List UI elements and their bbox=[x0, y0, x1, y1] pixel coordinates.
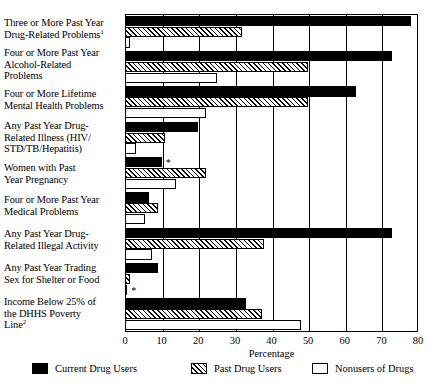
xtick-30: 30 bbox=[220, 335, 250, 346]
category-label-1-line3: Problems bbox=[4, 70, 42, 81]
bar-nonuser-0 bbox=[125, 37, 130, 47]
category-label-3-line1: Any Past Year Drug- bbox=[4, 120, 89, 131]
category-label-2-line1: Four or More Lifetime bbox=[4, 88, 96, 99]
category-label-3-line2: Related Illness (HIV/ bbox=[4, 132, 91, 143]
category-label-8-line2: the DHHS Poverty bbox=[4, 308, 81, 319]
category-label-6-line1: Any Past Year Drug- bbox=[4, 228, 89, 239]
category-label-4-line1: Women with Past bbox=[4, 162, 76, 173]
category-label-0-line1: Three or More Past Year bbox=[4, 17, 104, 28]
legend-label-current: Current Drug Users bbox=[55, 363, 137, 374]
category-label-0-line2: Drug-Related Problems bbox=[4, 29, 100, 40]
legend-item-current-drug-users: Current Drug Users bbox=[32, 363, 137, 374]
legend-swatch-nonuser-icon bbox=[312, 363, 328, 374]
category-label-0: Three or More Past Year Drug-Related Pro… bbox=[4, 17, 117, 40]
category-label-8-line1: Income Below 25% of bbox=[4, 296, 96, 307]
category-label-8: Income Below 25% of the DHHS Poverty Lin… bbox=[4, 296, 117, 331]
legend-label-nonuser: Nonusers of Drugs bbox=[335, 363, 414, 374]
significance-asterisk-0: * bbox=[166, 158, 171, 168]
chart-legend: Current Drug Users Past Drug Users Nonus… bbox=[32, 363, 402, 379]
bar-chart: Three or More Past Year Drug-Related Pro… bbox=[0, 0, 431, 386]
bar-current-5 bbox=[125, 192, 149, 202]
xtick-0: 0 bbox=[110, 335, 140, 346]
category-label-4: Women with Past Year Pregnancy bbox=[4, 162, 117, 185]
category-label-7: Any Past Year Trading Sex for Shelter or… bbox=[4, 262, 117, 285]
bar-past-6 bbox=[125, 239, 264, 249]
category-axis-labels: Three or More Past Year Drug-Related Pro… bbox=[0, 14, 121, 332]
bar-past-1 bbox=[125, 62, 308, 72]
category-label-5-line2: Medical Problems bbox=[4, 206, 78, 217]
bar-past-5 bbox=[125, 203, 158, 213]
bar-current-8 bbox=[125, 298, 246, 308]
significance-asterisk-1: * bbox=[131, 286, 136, 296]
category-label-4-line2: Year Pregnancy bbox=[4, 174, 68, 185]
category-label-2: Four or More Lifetime Mental Health Prob… bbox=[4, 88, 117, 111]
bar-current-6 bbox=[125, 228, 392, 238]
bar-past-3 bbox=[125, 133, 165, 143]
bar-nonuser-4 bbox=[125, 179, 176, 189]
bars-layer: ** bbox=[125, 14, 418, 332]
category-label-0-footnote: 1 bbox=[100, 27, 103, 35]
category-label-6: Any Past Year Drug- Related Illegal Acti… bbox=[4, 228, 117, 251]
xtick-40: 40 bbox=[257, 335, 287, 346]
bar-past-2 bbox=[125, 97, 308, 107]
legend-item-past-drug-users: Past Drug Users bbox=[191, 363, 282, 374]
xtick-70: 70 bbox=[366, 335, 396, 346]
xtick-50: 50 bbox=[293, 335, 323, 346]
category-label-6-line2: Related Illegal Activity bbox=[4, 240, 99, 251]
bar-nonuser-6 bbox=[125, 249, 152, 259]
bar-nonuser-8 bbox=[125, 320, 301, 330]
category-label-1-line1: Four or More Past Year bbox=[4, 47, 99, 58]
category-label-7-line1: Any Past Year Trading bbox=[4, 262, 96, 273]
legend-item-nonusers-of-drugs: Nonusers of Drugs bbox=[312, 363, 414, 374]
category-label-2-line2: Mental Health Problems bbox=[4, 100, 103, 111]
category-label-7-line2: Sex for Shelter or Food bbox=[4, 274, 99, 285]
bar-current-7 bbox=[125, 263, 158, 273]
xtick-60: 60 bbox=[330, 335, 360, 346]
legend-swatch-current-icon bbox=[32, 363, 48, 374]
bar-nonuser-2 bbox=[125, 108, 206, 118]
bar-current-3 bbox=[125, 122, 198, 132]
legend-swatch-past-icon bbox=[191, 363, 207, 374]
xtick-80: 80 bbox=[403, 335, 431, 346]
category-label-8-footnote: 2 bbox=[23, 318, 26, 326]
bar-nonuser-5 bbox=[125, 214, 145, 224]
bar-past-0 bbox=[125, 27, 242, 37]
category-label-1: Four or More Past Year Alcohol-Related P… bbox=[4, 47, 117, 82]
category-label-1-line2: Alcohol-Related bbox=[4, 59, 71, 70]
x-axis-title: Percentage bbox=[125, 348, 418, 359]
bar-current-0 bbox=[125, 16, 411, 26]
bar-current-1 bbox=[125, 51, 392, 61]
category-label-8-line3: Line bbox=[4, 319, 23, 330]
bar-nonuser-7 bbox=[125, 285, 127, 295]
category-label-5: Four or More Past Year Medical Problems bbox=[4, 194, 117, 217]
category-label-3: Any Past Year Drug- Related Illness (HIV… bbox=[4, 120, 117, 155]
xtick-10: 10 bbox=[147, 335, 177, 346]
bar-nonuser-1 bbox=[125, 73, 217, 83]
category-label-3-line3: STD/TB/Hepatitis) bbox=[4, 143, 82, 154]
bar-past-7 bbox=[125, 274, 130, 284]
bar-current-4 bbox=[125, 157, 162, 167]
bar-past-8 bbox=[125, 309, 262, 319]
xtick-20: 20 bbox=[183, 335, 213, 346]
bar-nonuser-3 bbox=[125, 143, 136, 153]
legend-label-past: Past Drug Users bbox=[214, 363, 282, 374]
bar-past-4 bbox=[125, 168, 206, 178]
category-label-5-line1: Four or More Past Year bbox=[4, 194, 99, 205]
bar-current-2 bbox=[125, 86, 356, 96]
